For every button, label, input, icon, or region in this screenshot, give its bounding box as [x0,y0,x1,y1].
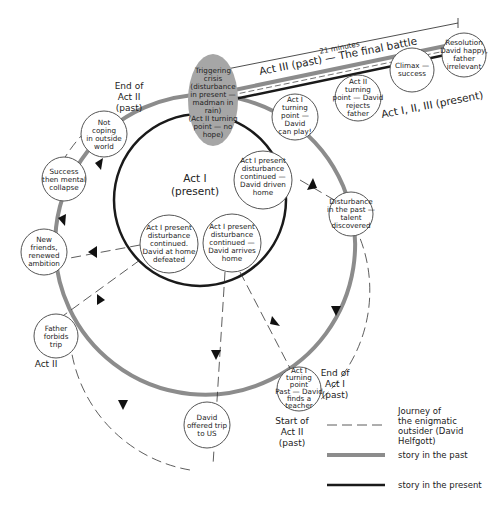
act2-label: Act II [35,359,58,369]
svg-text:Start of: Start of [275,416,309,426]
svg-text:world: world [94,142,114,151]
arrow-icon [118,400,128,410]
svg-text:can play!: can play! [278,127,311,136]
node-arrives-home: Act I present disturbance continued — Da… [203,214,261,272]
node-new-friends: New friends, renewed ambition [21,229,67,275]
node-success-collapse: Success then mental collapse [42,157,86,201]
arrow-icon [95,158,103,170]
story-structure-diagram: 21 minutes Act III (past) — The final ba… [0,0,501,515]
svg-text:trip: trip [50,340,63,349]
svg-text:(past): (past) [322,390,348,400]
svg-text:irrelevant: irrelevant [447,62,482,71]
act1-present-label-2: (present) [171,185,219,197]
svg-text:outsider (David: outsider (David [398,426,463,436]
node-offered-trip: David offered trip to US [184,402,230,448]
node-father-forbids: Father forbids trip [34,314,78,358]
start-act2-label: Start of Act II (past) [275,416,309,448]
arrow-icon [307,178,317,190]
svg-text:End of: End of [115,81,144,91]
svg-text:(past): (past) [116,103,142,113]
svg-text:story in the present: story in the present [398,480,482,490]
node-resolution: Resolution David happy, father irrelevan… [440,33,488,77]
svg-text:Journey of: Journey of [397,406,442,416]
node-rejects-father: Act II turning point — David rejects fat… [333,75,384,121]
svg-text:Act II: Act II [118,92,141,102]
svg-text:home: home [222,254,243,263]
svg-text:to US: to US [197,429,217,438]
svg-text:the enigmatic: the enigmatic [398,416,457,426]
svg-text:story in the past: story in the past [398,450,468,460]
arrow-icon [97,294,105,305]
node-home-defeated: Act I present disturbance continued. Dav… [140,215,198,273]
svg-text:collapse: collapse [49,183,79,192]
legend: Journey of the enigmatic outsider (David… [327,406,482,490]
svg-text:defeated: defeated [153,255,185,264]
svg-text:ambition: ambition [28,259,60,268]
svg-text:discovered: discovered [331,221,370,230]
svg-text:hope): hope) [203,130,224,139]
node-driven-home: Act I present disturbance continued — Da… [234,151,292,209]
svg-text:home: home [253,188,274,197]
act123-present-label: Act I, II, III (present) [380,88,484,120]
act1-present-label: Act I [183,172,206,184]
svg-text:success: success [398,69,426,78]
triggering-crisis-node: Triggering crisis (disturbance in presen… [188,54,238,146]
svg-text:teacher: teacher [285,401,313,410]
node-can-play: Act I turning point — David can play! [272,94,318,140]
arrow-icon [88,246,97,258]
svg-text:Helfgott): Helfgott) [398,436,436,446]
svg-text:Act II: Act II [281,427,304,437]
svg-text:End of: End of [321,368,350,378]
svg-text:Act I: Act I [325,379,345,389]
node-climax: Climax — success [390,48,434,92]
end-act1-label: End of Act I (past) [321,368,350,400]
end-act2-label: End of Act II (past) [115,81,144,113]
arrow-icon [270,316,280,326]
svg-text:(past): (past) [279,438,305,448]
node-not-coping: Not coping in outside world [81,111,127,157]
node-talent-discovered: Disturbance in the past — talent discove… [327,192,375,236]
svg-text:father: father [347,109,369,118]
